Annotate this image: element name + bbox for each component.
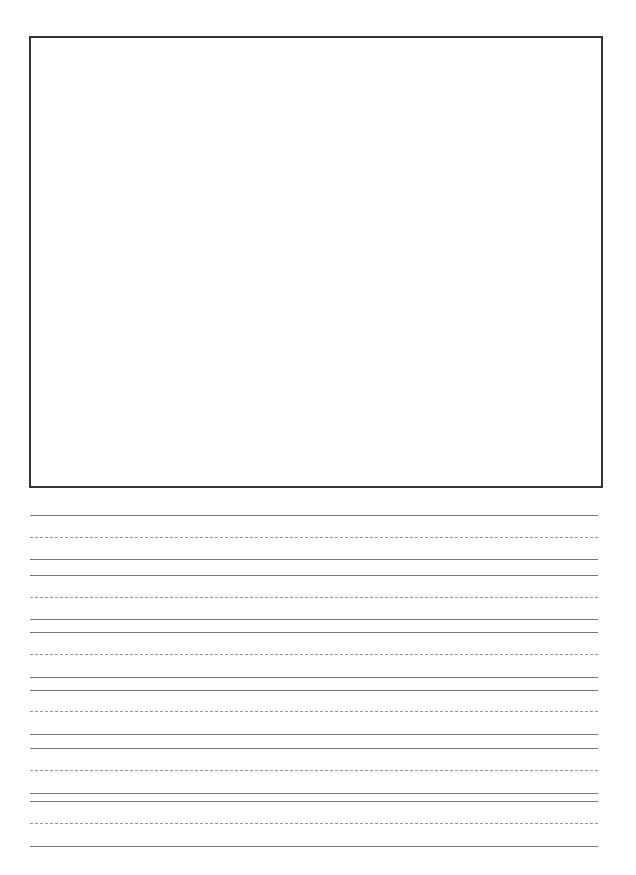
writing-line-dashed xyxy=(30,537,598,538)
writing-line-solid xyxy=(30,575,598,576)
writing-line-solid xyxy=(30,677,598,678)
writing-line-solid xyxy=(30,846,598,847)
writing-line-dashed xyxy=(30,711,598,712)
writing-line-solid xyxy=(30,801,598,802)
writing-line-solid xyxy=(30,734,598,735)
writing-line-dashed xyxy=(30,654,598,655)
drawing-box xyxy=(29,36,603,488)
writing-line-dashed xyxy=(30,597,598,598)
writing-line-solid xyxy=(30,748,598,749)
writing-line-solid xyxy=(30,619,598,620)
writing-line-solid xyxy=(30,690,598,691)
writing-line-solid xyxy=(30,793,598,794)
writing-line-solid xyxy=(30,559,598,560)
writing-line-dashed xyxy=(30,770,598,771)
writing-line-dashed xyxy=(30,823,598,824)
writing-line-solid xyxy=(30,515,598,516)
writing-line-solid xyxy=(30,632,598,633)
